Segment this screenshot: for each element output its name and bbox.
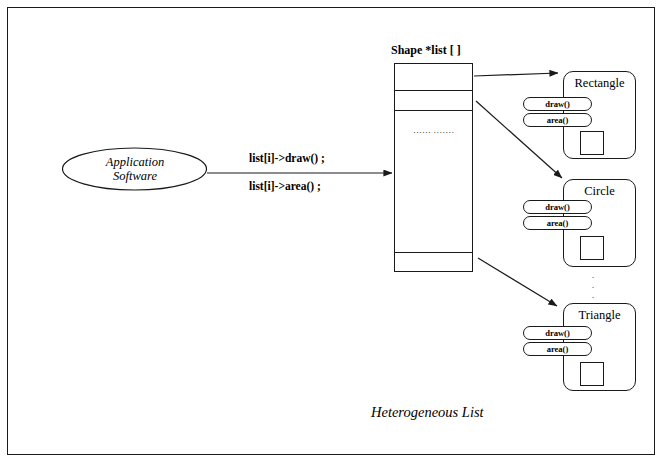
square-shape-icon — [580, 362, 604, 386]
application-software-label-line1: Application — [62, 155, 208, 169]
square-shape-icon — [580, 236, 604, 260]
shape-list-header: Shape *list [ ] — [391, 44, 461, 57]
object-triangle-method-draw[interactable]: draw() — [523, 326, 592, 340]
draw-call-label: list[i]->draw() ; — [249, 152, 325, 165]
list-array-ellipsis: ······ ······· — [395, 128, 472, 138]
inter-object-ellipsis-dot: · — [588, 282, 598, 292]
arrow-to-rectangle — [474, 73, 558, 76]
figure-caption: Heterogeneous List — [371, 404, 484, 420]
inter-object-ellipsis-dot: · — [588, 292, 598, 302]
object-circle-method-draw[interactable]: draw() — [523, 200, 592, 214]
inter-object-ellipsis: · · · — [588, 272, 598, 302]
arrow-to-triangle — [478, 258, 557, 306]
application-software-label: Application Software — [62, 155, 208, 183]
object-triangle-title: Triangle — [563, 308, 636, 323]
area-call-label: list[i]->area() ; — [249, 180, 321, 193]
list-array-divider-1 — [395, 90, 472, 91]
object-rectangle-title: Rectangle — [563, 76, 636, 91]
object-triangle-method-area[interactable]: area() — [523, 342, 592, 356]
shape-list-array: ······ ······· — [394, 63, 473, 272]
object-rectangle-method-draw[interactable]: draw() — [523, 97, 592, 111]
list-array-divider-3 — [395, 252, 472, 253]
inter-object-ellipsis-dot: · — [588, 272, 598, 282]
figure-canvas: Application Software list[i]->draw() ; l… — [0, 0, 665, 466]
object-circle-title: Circle — [563, 184, 636, 199]
square-shape-icon — [580, 131, 604, 155]
list-array-divider-2 — [395, 110, 472, 111]
object-circle-method-area[interactable]: area() — [523, 216, 592, 230]
object-rectangle-method-area[interactable]: area() — [523, 113, 592, 127]
application-software-label-line2: Software — [62, 169, 208, 183]
